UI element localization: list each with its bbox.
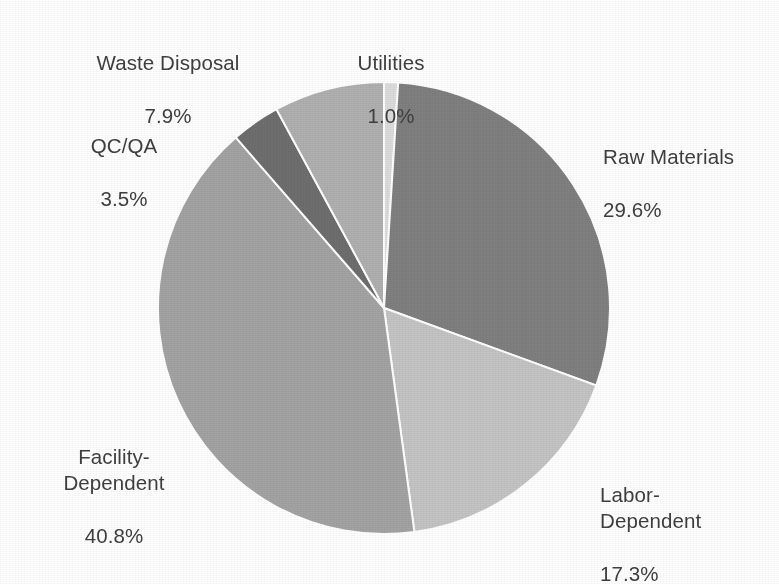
slice-label-facility-dependent-name: Facility- Dependent <box>18 444 210 496</box>
slice-label-utilities-value: 1.0% <box>315 103 467 129</box>
slice-label-raw-materials: Raw Materials 29.6% <box>603 118 779 249</box>
slice-label-facility-dependent: Facility- Dependent 40.8% <box>18 418 210 575</box>
slice-label-labor-dependent: Labor- Dependent 17.3% <box>600 456 779 584</box>
slice-label-utilities-name: Utilities <box>315 50 467 76</box>
slice-label-labor-dependent-name: Labor- Dependent <box>600 482 779 534</box>
slice-label-waste-disposal-name: Waste Disposal <box>52 50 284 76</box>
slice-label-qc-qa: QC/QA 3.5% <box>38 107 210 238</box>
slice-label-raw-materials-value: 29.6% <box>603 197 779 223</box>
slice-label-utilities: Utilities 1.0% <box>315 24 467 155</box>
slice-label-qc-qa-name: QC/QA <box>38 133 210 159</box>
slice-label-labor-dependent-value: 17.3% <box>600 561 779 584</box>
pie-chart-figure: Waste Disposal 7.9% Utilities 1.0% Raw M… <box>0 0 779 584</box>
slice-label-qc-qa-value: 3.5% <box>38 186 210 212</box>
slice-label-raw-materials-name: Raw Materials <box>603 144 779 170</box>
slice-label-facility-dependent-value: 40.8% <box>18 523 210 549</box>
